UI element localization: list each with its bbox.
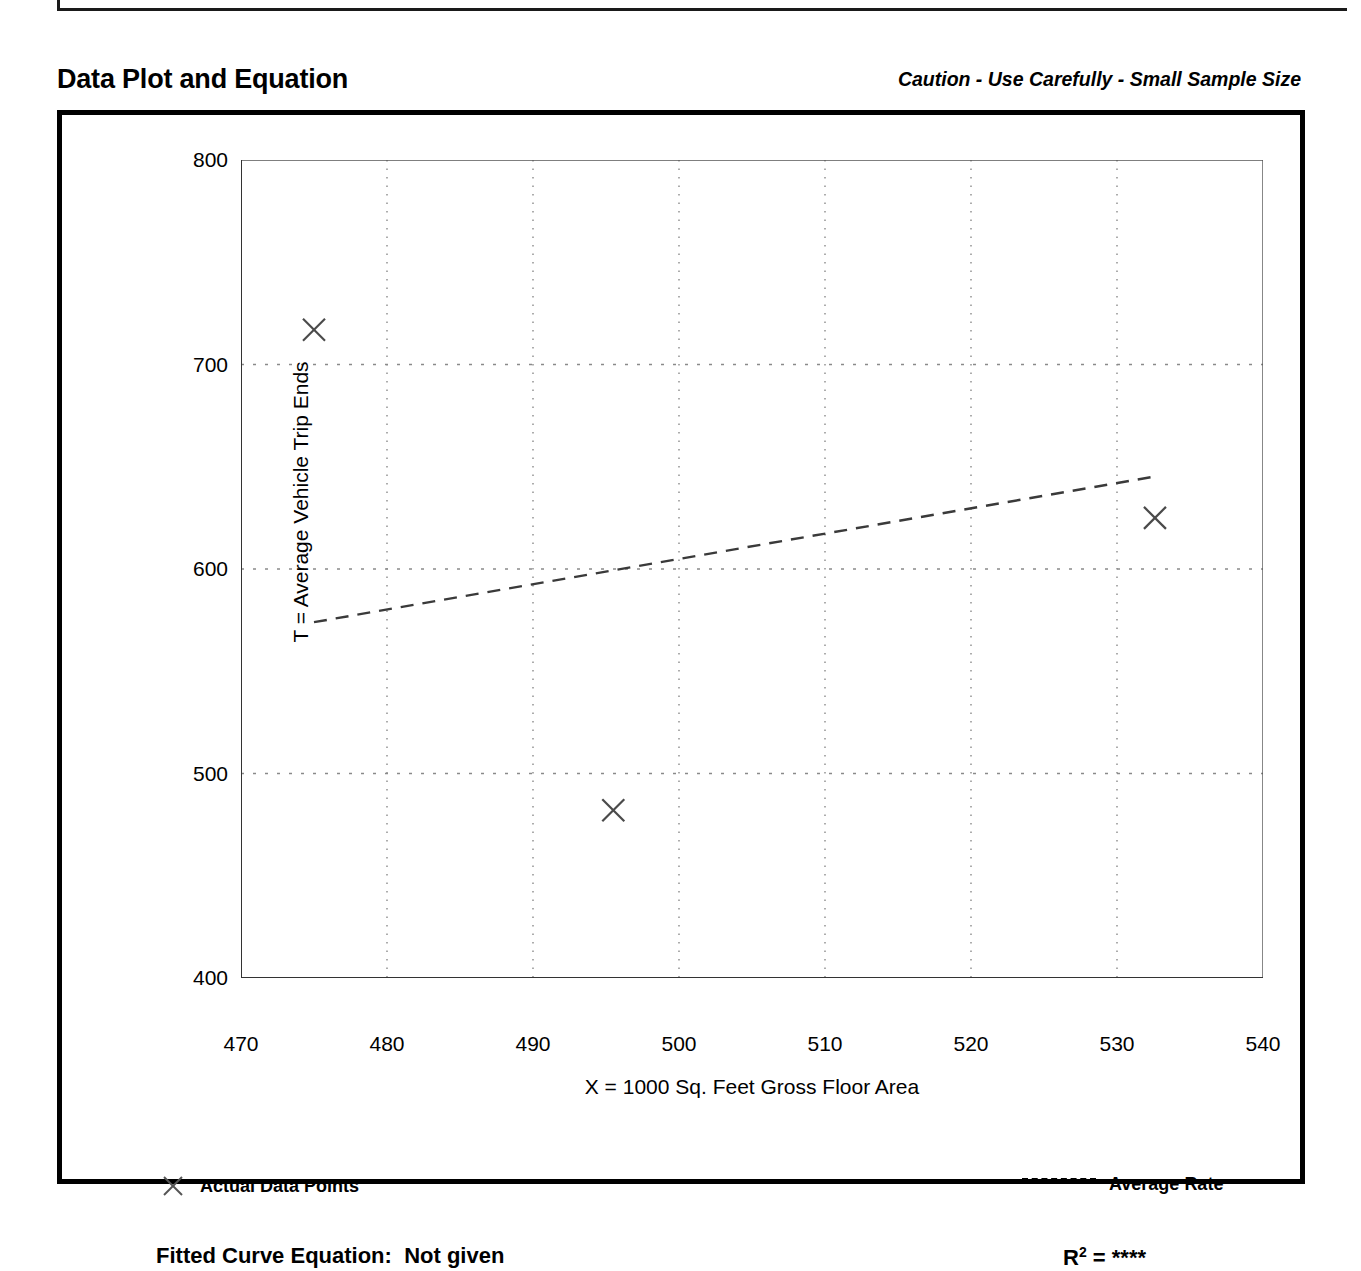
data-point-marker [1144,507,1166,529]
fitted-curve-equation: Fitted Curve Equation: Not given [156,1243,504,1269]
x-axis-tick-label: 520 [931,1032,1011,1056]
page-top-rule [57,0,1347,11]
x-axis-tick-label: 540 [1223,1032,1303,1056]
x-axis-title: X = 1000 Sq. Feet Gross Floor Area [241,1075,1263,1099]
r-squared-exponent: 2 [1079,1244,1087,1260]
y-axis-tick-label: 800 [138,149,228,170]
caution-note: Caution - Use Carefully - Small Sample S… [898,68,1301,91]
y-axis-tick-label: 500 [138,763,228,784]
y-axis-tick-label: 400 [138,967,228,988]
r-squared-value: R2 = **** [1063,1244,1146,1271]
page-top-rule-cap [57,0,60,10]
trend-line-average-rate [314,477,1152,622]
fitted-curve-equation-label: Fitted Curve Equation: [156,1243,392,1268]
plot-area: T = Average Vehicle Trip Ends X = 1000 S… [241,160,1263,978]
page-title: Data Plot and Equation [57,64,348,95]
y-axis-title: T = Average Vehicle Trip Ends [289,322,313,682]
data-point-marker [602,799,624,821]
legend-x-marker-icon [160,1173,186,1199]
fitted-curve-equation-value: Not given [404,1243,504,1268]
chart-frame: T = Average Vehicle Trip Ends X = 1000 S… [57,110,1305,1184]
x-axis-tick-label: 480 [347,1032,427,1056]
legend-label-data-points: Actual Data Points [200,1176,359,1197]
x-axis-tick-label: 470 [201,1032,281,1056]
y-axis-tick-label: 700 [138,354,228,375]
y-axis-tick-label: 600 [138,558,228,579]
legend-dashed-line-icon [1022,1178,1096,1180]
x-axis-tick-label: 500 [639,1032,719,1056]
x-axis-tick-label: 510 [785,1032,865,1056]
chart-canvas [241,160,1263,978]
legend-label-average-rate: Average Rate [1109,1174,1223,1195]
x-axis-tick-label: 490 [493,1032,573,1056]
r-squared-number: = **** [1093,1245,1146,1270]
r-squared-label: R [1063,1245,1079,1270]
x-axis-tick-label: 530 [1077,1032,1157,1056]
